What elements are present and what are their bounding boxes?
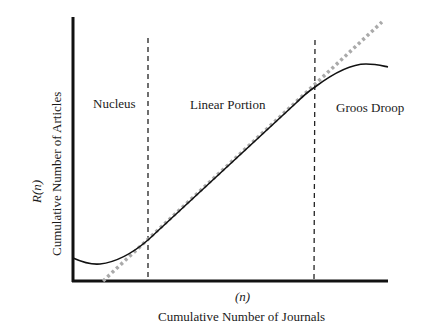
- bradford-curve: [73, 64, 388, 264]
- groos-droop-label: Groos Droop: [336, 100, 404, 116]
- x-axis-title: Cumulative Number of Journals: [158, 309, 325, 325]
- y-axis-title: Cumulative Number of Articles: [49, 92, 65, 256]
- y-axis-symbol: R(n): [29, 180, 45, 203]
- linear-portion-label: Linear Portion: [190, 97, 265, 113]
- x-axis-symbol: (n): [235, 289, 250, 305]
- nucleus-label: Nucleus: [93, 96, 136, 112]
- droop-divider: [314, 40, 315, 281]
